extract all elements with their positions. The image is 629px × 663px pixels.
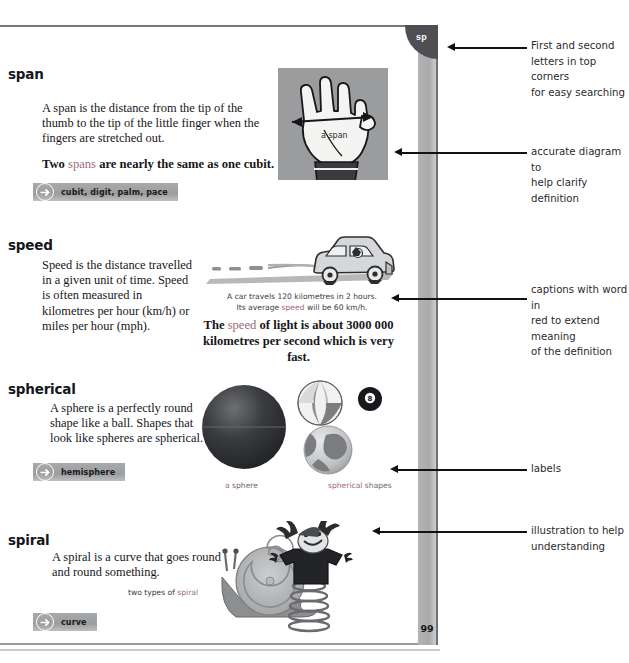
book-page: sp 99 span A span is the distance from t… — [0, 25, 438, 645]
entry-spiral: spiral A spiral is a curve that goes rou… — [0, 515, 418, 645]
definition-speed: Speed is the distance travelled in a giv… — [42, 258, 192, 334]
fact-span-keyword: spans — [68, 157, 96, 171]
anno-corner-text: First and second letters in top corners … — [531, 38, 627, 100]
label-a-sphere: a sphere — [225, 481, 258, 490]
page-number: 99 — [419, 623, 435, 634]
car-speed-illustration — [202, 235, 402, 290]
anno-corner-leader — [455, 47, 527, 49]
anno-caption-arrowhead — [391, 294, 399, 302]
anno-labels-line1: labels — [531, 461, 627, 477]
anno-illus-line2: understanding — [531, 539, 627, 555]
label-a-sphere-word: sphere — [232, 481, 258, 490]
label-spherical-shapes-kw: spherical — [328, 481, 365, 490]
arrow-right-circle-icon — [36, 183, 54, 201]
entry-speed: speed Speed is the distance travelled in… — [0, 215, 418, 355]
anno-labels-text: labels — [531, 461, 627, 477]
spheres-illustration: 8 — [198, 377, 398, 477]
eight-ball-number: 8 — [368, 395, 373, 403]
entry-span: span A span is the distance from the tip… — [0, 25, 418, 215]
xref-text-spiral: curve — [61, 618, 87, 627]
anno-illus-arrowhead — [372, 527, 380, 535]
caption-speed-line2: Its average speed will be 60 km/h. — [196, 302, 408, 313]
caption-speed-line2-before: Its average — [237, 303, 282, 312]
caption-speed: A car travels 120 kilometres in 2 hours.… — [196, 291, 408, 313]
arrow-right-circle-icon — [36, 613, 54, 631]
anno-corner-line2: letters in top corners — [531, 54, 627, 85]
anno-illus-text: illustration to help understanding — [531, 523, 627, 554]
anno-illus-leader — [380, 531, 527, 533]
caption-spiral-before: two types of — [128, 588, 177, 597]
fact-span-before: Two — [42, 157, 68, 171]
page-gutter-strip — [418, 25, 438, 645]
fact-speed-before: The — [204, 318, 228, 332]
xref-text-span: cubit, digit, palm, pace — [61, 188, 168, 197]
label-spherical-shapes: spherical shapes — [328, 481, 392, 490]
caption-speed-line1: A car travels 120 kilometres in 2 hours. — [196, 291, 408, 302]
definition-spiral: A spiral is a curve that goes round and … — [52, 550, 227, 580]
anno-diagram-text: accurate diagram to help clarify definit… — [531, 144, 627, 206]
anno-diagram-line2: help clarify definition — [531, 175, 627, 206]
anno-labels-arrowhead — [390, 465, 398, 473]
anno-caption-line1: captions with word in — [531, 282, 629, 313]
anno-diagram-leader — [402, 152, 527, 154]
anno-caption-line3: of the definition — [531, 344, 629, 360]
anno-caption-leader — [399, 298, 527, 300]
xref-bar-spiral[interactable]: curve — [33, 613, 97, 631]
xref-bar-spherical[interactable]: hemisphere — [33, 463, 125, 481]
anno-diagram-line1: accurate diagram to — [531, 144, 627, 175]
headword-spherical: spherical — [8, 381, 76, 397]
anno-illus-line1: illustration to help — [531, 523, 627, 539]
caption-speed-line2-keyword: speed — [282, 303, 305, 312]
fact-speed-keyword: speed — [228, 318, 257, 332]
arrow-right-circle-icon — [36, 463, 54, 481]
anno-corner-line1: First and second — [531, 38, 627, 54]
headword-span: span — [8, 66, 44, 82]
spiral-illustration — [218, 521, 378, 636]
anno-caption-text: captions with word in red to extend mean… — [531, 282, 629, 360]
anno-diagram-arrowhead — [394, 148, 402, 156]
headword-spiral: spiral — [8, 532, 50, 548]
definition-span: A span is the distance from the tip of t… — [42, 101, 267, 147]
definition-spherical: A sphere is a perfectly round shape like… — [50, 401, 210, 447]
headword-speed: speed — [8, 237, 53, 253]
hand-span-diagram: a span — [278, 68, 388, 180]
page-gutter-line — [436, 25, 438, 645]
xref-bar-span[interactable]: cubit, digit, palm, pace — [33, 183, 178, 201]
label-spherical-shapes-word: shapes — [365, 481, 392, 490]
globe — [304, 426, 352, 474]
anno-corner-line3: for easy searching — [531, 85, 627, 101]
fact-span: Two spans are nearly the same as one cub… — [42, 156, 292, 172]
anno-corner-arrowhead — [447, 43, 455, 51]
xref-text-spherical: hemisphere — [61, 468, 115, 477]
hand-span-label: a span — [321, 131, 348, 140]
fact-span-after: are nearly the same as one cubit. — [96, 157, 274, 171]
anno-caption-line2: red to extend meaning — [531, 313, 629, 344]
caption-speed-line2-after: will be 60 km/h. — [305, 303, 368, 312]
anno-labels-leader — [398, 469, 527, 471]
caption-spiral-keyword: spiral — [177, 588, 198, 597]
beach-ball — [298, 381, 342, 425]
page-bottom-shadow — [0, 649, 440, 651]
eight-ball: 8 — [358, 387, 382, 411]
entry-spherical: spherical A sphere is a perfectly round … — [0, 355, 418, 515]
